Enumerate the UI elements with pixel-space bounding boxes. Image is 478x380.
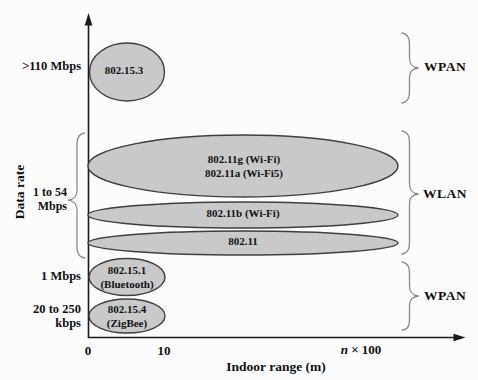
group-label-wpan-bottom: WPAN bbox=[424, 288, 466, 304]
y-label-20to250-kbps: 20 to 250 kbps bbox=[0, 303, 81, 330]
y-label-1-mbps: 1 Mbps bbox=[0, 270, 81, 284]
x-axis-title: Indoor range (m) bbox=[226, 359, 326, 375]
label-802-11b: 802.11b (Wi-Fi) bbox=[206, 207, 279, 221]
group-label-wpan-top: WPAN bbox=[424, 59, 466, 75]
brace-wlan bbox=[402, 131, 419, 254]
x-axis-arrowhead bbox=[454, 334, 466, 342]
x-tick-n-x-100: n × 100 bbox=[341, 342, 382, 358]
y-label-20to250-line1: 20 to 250 bbox=[0, 303, 81, 317]
group-label-wlan: WLAN bbox=[423, 186, 467, 202]
brace-wpan-bottom bbox=[402, 262, 419, 330]
y-label-20to250-line2: kbps bbox=[0, 317, 81, 331]
x-tick-10: 10 bbox=[158, 343, 171, 359]
label-802-15-4-zigbee: 802.15.4 (ZigBee) bbox=[107, 303, 147, 330]
brace-1to54-mbps bbox=[68, 133, 85, 258]
label-802-15-3: 802.15.3 bbox=[105, 64, 144, 78]
label-802-11a: 802.11a (Wi-Fi5) bbox=[205, 166, 283, 180]
x-tick-0: 0 bbox=[85, 343, 92, 359]
y-axis-arrowhead bbox=[85, 13, 93, 26]
label-802-11g: 802.11g (Wi-Fi) bbox=[205, 153, 283, 167]
label-802-15-4: 802.15.4 bbox=[107, 303, 147, 317]
wireless-standards-figure: Data rate >110 Mbps 1 to 54 Mbps 1 Mbps … bbox=[0, 0, 478, 380]
label-zigbee: (ZigBee) bbox=[107, 316, 147, 330]
label-802-15-1: 802.15.1 bbox=[100, 264, 153, 278]
x-tick-x100: × 100 bbox=[348, 342, 381, 357]
label-802-15-1-bluetooth: 802.15.1 (Bluetooth) bbox=[100, 264, 153, 291]
y-label-gt110-mbps: >110 Mbps bbox=[0, 60, 81, 74]
label-802-11g-802-11a: 802.11g (Wi-Fi) 802.11a (Wi-Fi5) bbox=[205, 153, 283, 180]
label-bluetooth: (Bluetooth) bbox=[100, 277, 153, 291]
label-802-11: 802.11 bbox=[228, 235, 258, 249]
y-label-1to54-mbps: 1 to 54 Mbps bbox=[0, 186, 67, 213]
y-label-1to54-line2: Mbps bbox=[0, 200, 67, 214]
brace-wpan-top bbox=[402, 33, 419, 103]
y-label-1to54-line1: 1 to 54 bbox=[0, 186, 67, 200]
